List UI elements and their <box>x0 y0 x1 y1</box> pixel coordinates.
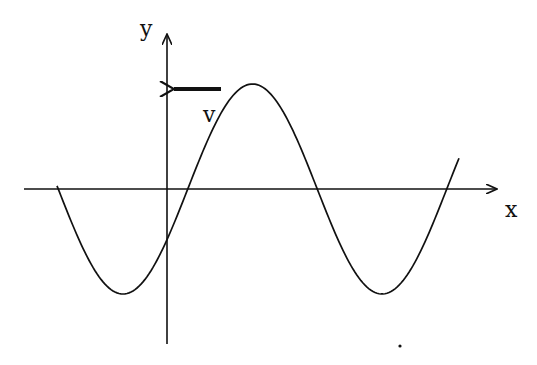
y-axis-label: y <box>139 16 153 41</box>
velocity-label: v <box>202 102 216 127</box>
wave-diagram: y x v <box>0 0 537 365</box>
x-axis-label: x <box>505 197 518 222</box>
stray-dot <box>398 344 401 347</box>
